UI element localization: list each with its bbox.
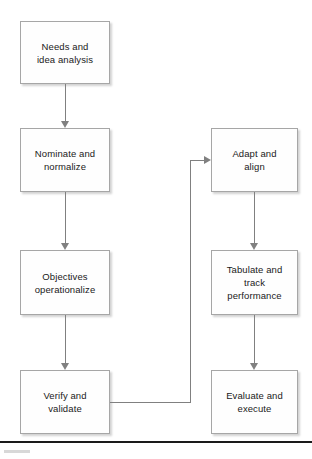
flow-node-label: Adapt and align — [216, 147, 293, 173]
connector-verify-to-adapt-segment-horizontal-top — [190, 160, 205, 161]
connector-tabulate-to-evaluate — [254, 315, 255, 363]
flow-node-tabulate-and-track-performance[interactable]: Tabulate and track performance — [211, 250, 298, 315]
flow-node-label: Needs and idea analysis — [25, 40, 105, 66]
flow-node-adapt-and-align[interactable]: Adapt and align — [211, 128, 298, 192]
flow-node-evaluate-and-execute[interactable]: Evaluate and execute — [211, 370, 298, 434]
arrowhead-right-icon — [204, 156, 211, 164]
flow-node-label: Objectives operationalize — [25, 270, 105, 296]
connector-needs-to-nominate — [65, 84, 66, 121]
flow-node-verify-and-validate[interactable]: Verify and validate — [20, 370, 110, 434]
flow-node-label: Evaluate and execute — [216, 389, 293, 415]
arrowhead-down-icon — [61, 121, 69, 128]
connector-adapt-to-tabulate — [254, 192, 255, 243]
connector-nominate-to-objectives — [65, 192, 66, 243]
flow-node-needs-and-idea-analysis[interactable]: Needs and idea analysis — [20, 21, 110, 84]
flowchart-canvas: Needs and idea analysis Nominate and nor… — [0, 0, 312, 459]
connector-objectives-to-verify — [65, 315, 66, 363]
arrowhead-down-icon — [250, 363, 258, 370]
arrowhead-down-icon — [250, 243, 258, 250]
footer-artifact — [4, 450, 30, 453]
footer-divider — [0, 441, 312, 443]
flow-node-nominate-and-normalize[interactable]: Nominate and normalize — [20, 128, 110, 192]
flow-node-label: Verify and validate — [25, 389, 105, 415]
connector-verify-to-adapt-segment-horizontal-bottom — [110, 402, 191, 403]
arrowhead-down-icon — [61, 363, 69, 370]
flow-node-objectives-operationalize[interactable]: Objectives operationalize — [20, 250, 110, 315]
flow-node-label: Nominate and normalize — [25, 147, 105, 173]
arrowhead-down-icon — [61, 243, 69, 250]
connector-verify-to-adapt-segment-vertical — [190, 160, 191, 402]
flow-node-label: Tabulate and track performance — [216, 263, 293, 302]
